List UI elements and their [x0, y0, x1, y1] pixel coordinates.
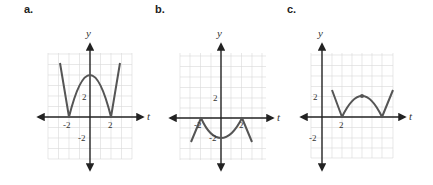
graph-b-grid [180, 53, 266, 160]
graph-c-grid [311, 53, 393, 158]
graph-c-tick-x-2: 2 [339, 120, 344, 130]
graph-b: y t -2 2 2 -2 [170, 27, 281, 170]
graph-a: y t -2 2 2 -2 [38, 27, 151, 170]
graph-b-t-label: t [277, 111, 281, 123]
graph-a-tick-y-2: 2 [82, 92, 87, 102]
graph-b-tick-x-neg2: -2 [194, 120, 202, 130]
graph-c-y-label: y [317, 27, 323, 39]
graph-c: y t 2 2 -2 [301, 27, 413, 170]
graph-a-tick-x-2: 2 [108, 120, 113, 130]
graph-a-y-label: y [85, 27, 91, 39]
graph-a-tick-y-neg2: -2 [78, 133, 86, 143]
graph-c-tick-y-2: 2 [313, 92, 318, 102]
graph-c-tick-y-neg2: -2 [309, 133, 317, 143]
graph-c-max-point [360, 94, 364, 98]
graph-c-curve [332, 90, 393, 117]
graph-c-t-label: t [409, 110, 413, 122]
graph-b-tick-y-neg2: -2 [209, 133, 217, 143]
graph-b-y-label: y [216, 27, 222, 39]
graph-a-tick-x-neg2: -2 [63, 120, 71, 130]
graphs-canvas: y t -2 2 2 -2 y t -2 2 2 -2 [0, 0, 433, 185]
graph-a-t-label: t [147, 110, 151, 122]
graph-b-tick-y-2: 2 [213, 93, 218, 103]
graph-b-tick-x-2: 2 [239, 120, 244, 130]
